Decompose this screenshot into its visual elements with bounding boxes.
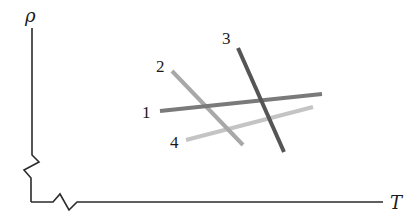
y-axis <box>24 28 39 202</box>
x-axis-label: T <box>390 192 404 213</box>
line-4-label: 4 <box>170 133 179 152</box>
line-4 <box>186 107 313 140</box>
line-1 <box>160 94 322 111</box>
y-axis-label: ρ <box>24 5 36 26</box>
line-3-label: 3 <box>222 29 231 48</box>
x-axis <box>31 194 383 210</box>
line-1-label: 1 <box>142 103 151 122</box>
rho-vs-temperature-diagram: ρ T 1 2 3 4 <box>0 0 415 221</box>
line-2-label: 2 <box>156 57 165 76</box>
